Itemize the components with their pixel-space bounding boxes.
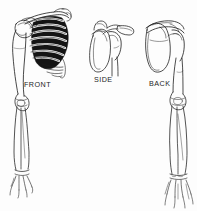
view-label-back: BACK bbox=[149, 79, 170, 88]
view-label-side: SIDE bbox=[94, 75, 113, 84]
view-label-front: FRONT bbox=[24, 80, 51, 89]
skeleton-illustration bbox=[0, 0, 197, 211]
illustration-canvas: FRONT SIDE BACK bbox=[0, 0, 197, 211]
